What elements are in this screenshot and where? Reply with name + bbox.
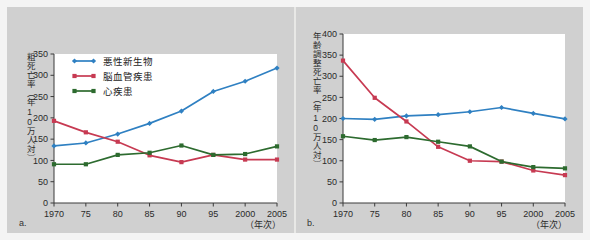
legend-marker bbox=[91, 89, 95, 93]
legend-label-2: 脳血管疾患 bbox=[103, 71, 153, 82]
chart-b-ylabel: 年齢調整死亡率（年10万人対） bbox=[310, 32, 320, 169]
figure-page: 0501001502002503003501970758085909520002… bbox=[0, 0, 590, 240]
x-tick-label: 95 bbox=[208, 209, 218, 219]
legend-marker bbox=[72, 74, 76, 78]
data-point bbox=[211, 153, 215, 157]
y-tick-label: 50 bbox=[38, 177, 48, 187]
y-tick-label: 350 bbox=[322, 50, 337, 60]
y-tick-label: 0 bbox=[43, 198, 48, 208]
chart-a-canvas: 0501001502002503003501970758085909520002… bbox=[7, 7, 295, 233]
data-point bbox=[468, 144, 472, 148]
data-point bbox=[531, 165, 535, 169]
x-tick-label: 75 bbox=[370, 209, 380, 219]
data-point bbox=[116, 153, 120, 157]
data-point bbox=[436, 140, 440, 144]
y-tick-label: 200 bbox=[33, 113, 48, 123]
data-point bbox=[52, 162, 56, 166]
y-tick-label: 150 bbox=[322, 135, 337, 145]
data-point bbox=[275, 144, 279, 148]
data-point bbox=[243, 157, 247, 161]
chart-panel-b: 0501001502002503003504001970758085909520… bbox=[295, 7, 583, 233]
data-point bbox=[179, 160, 183, 164]
x-tick-label: 1970 bbox=[44, 209, 64, 219]
y-tick-label: 350 bbox=[33, 49, 48, 59]
data-point bbox=[243, 152, 247, 156]
y-tick-label: 250 bbox=[33, 92, 48, 102]
data-point bbox=[499, 159, 503, 163]
data-point bbox=[341, 134, 345, 138]
chart-b-canvas: 0501001502002503003504001970758085909520… bbox=[295, 7, 583, 233]
data-point bbox=[404, 135, 408, 139]
x-tick-label: 90 bbox=[176, 209, 186, 219]
chart-a-xlabel: （年次） bbox=[245, 218, 281, 231]
chart-a-panel-label: a. bbox=[19, 218, 27, 228]
x-tick-label: 80 bbox=[113, 209, 123, 219]
data-point bbox=[373, 138, 377, 142]
x-tick-label: 85 bbox=[433, 209, 443, 219]
data-point bbox=[179, 143, 183, 147]
x-tick-label: 85 bbox=[145, 209, 155, 219]
chart-b-xlabel: （年次） bbox=[531, 218, 567, 231]
y-tick-label: 250 bbox=[322, 93, 337, 103]
chart-a-ylabel: 粗死亡率（年10万人対） bbox=[24, 53, 34, 163]
y-tick-label: 0 bbox=[332, 198, 337, 208]
x-tick-label: 95 bbox=[497, 209, 507, 219]
data-point bbox=[373, 96, 377, 100]
data-point bbox=[52, 119, 56, 123]
data-point bbox=[404, 119, 408, 123]
data-point bbox=[147, 151, 151, 155]
y-tick-label: 100 bbox=[322, 156, 337, 166]
x-tick-label: 80 bbox=[401, 209, 411, 219]
data-point bbox=[563, 173, 567, 177]
legend-label-1: 悪性新生物 bbox=[103, 56, 153, 67]
x-tick-label: 90 bbox=[465, 209, 475, 219]
chart-b-panel-label: b. bbox=[307, 218, 315, 228]
y-tick-label: 300 bbox=[33, 70, 48, 80]
data-point bbox=[116, 140, 120, 144]
y-tick-label: 100 bbox=[33, 156, 48, 166]
chart-panel-a: 0501001502002503003501970758085909520002… bbox=[7, 7, 295, 233]
data-point bbox=[563, 166, 567, 170]
legend-marker bbox=[72, 89, 76, 93]
y-tick-label: 400 bbox=[322, 29, 337, 39]
x-tick-label: 1970 bbox=[333, 209, 353, 219]
y-tick-label: 300 bbox=[322, 71, 337, 81]
data-point bbox=[84, 130, 88, 134]
x-tick-label: 75 bbox=[81, 209, 91, 219]
y-tick-label: 200 bbox=[322, 114, 337, 124]
data-point bbox=[341, 59, 345, 63]
y-tick-label: 150 bbox=[33, 134, 48, 144]
legend-label-3: 心疾患 bbox=[103, 86, 133, 97]
data-point bbox=[436, 145, 440, 149]
data-point bbox=[84, 162, 88, 166]
y-tick-label: 50 bbox=[327, 177, 337, 187]
legend-marker bbox=[91, 74, 95, 78]
data-point bbox=[468, 159, 472, 163]
data-point bbox=[275, 157, 279, 161]
